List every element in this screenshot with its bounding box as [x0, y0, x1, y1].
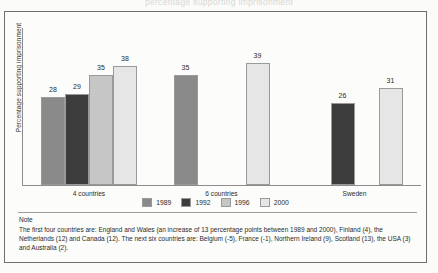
bar-value-label: 31 [387, 77, 395, 84]
legend-item-1989[interactable]: 1989 [142, 198, 171, 207]
bars: 26 31 [307, 28, 403, 185]
bar-value-label: 29 [73, 83, 81, 90]
x-axis-line [22, 185, 421, 186]
note-body: The first four countries are: England an… [19, 225, 417, 253]
legend-label-1996: 1996 [235, 199, 250, 206]
bar-value-label: 28 [49, 86, 57, 93]
bar-group-6-countries: 35 39 [155, 28, 288, 185]
legend-label-1989: 1989 [156, 199, 171, 206]
bar-group-4-countries: 28 29 35 38 [23, 28, 155, 185]
bar-value-label: 35 [182, 64, 190, 71]
legend-swatch-1989 [142, 198, 152, 207]
legend-swatch-1996 [221, 198, 231, 207]
y-axis-label: Percentage supporting imprisonment [15, 8, 22, 148]
legend-item-2000[interactable]: 2000 [260, 198, 289, 207]
chart-legend: 1989 1992 1996 2000 [4, 198, 427, 207]
bar-value-label: 26 [339, 92, 347, 99]
cut-off-title: percentage supporting imprisonment [0, 0, 438, 7]
bar-placeholder-1996 [222, 184, 246, 185]
bar-placeholder-1989 [307, 184, 331, 185]
bar-value-label: 39 [254, 52, 262, 59]
bar-4countries-2000[interactable]: 38 [113, 66, 137, 185]
legend-label-2000: 2000 [274, 199, 289, 206]
bar-4countries-1996[interactable]: 35 [89, 75, 113, 185]
bar-value-label: 35 [97, 64, 105, 71]
bar-groups: 28 29 35 38 35 [23, 28, 421, 185]
legend-swatch-1992 [181, 198, 191, 207]
note-section: Note The first four countries are: Engla… [19, 215, 417, 252]
bar-placeholder-1992 [198, 184, 222, 185]
bar-group-sweden: 26 31 [288, 28, 421, 185]
bar-placeholder-1996 [355, 184, 379, 185]
bar-sweden-2000[interactable]: 31 [379, 88, 403, 185]
legend-item-1992[interactable]: 1992 [181, 198, 210, 207]
bar-4countries-1989[interactable]: 28 [41, 97, 65, 185]
bar-6countries-1989[interactable]: 35 [174, 75, 198, 185]
bars: 35 39 [174, 28, 270, 185]
bar-6countries-2000[interactable]: 39 [246, 63, 270, 185]
legend-item-1996[interactable]: 1996 [221, 198, 250, 207]
bar-sweden-1992[interactable]: 26 [331, 103, 355, 185]
legend-swatch-2000 [260, 198, 270, 207]
plot-area: Percentage supporting imprisonment 28 29… [4, 12, 427, 188]
note-heading: Note [19, 215, 417, 224]
bar-4countries-1992[interactable]: 29 [65, 94, 89, 185]
bar-value-label: 38 [121, 55, 129, 62]
legend-label-1992: 1992 [195, 199, 210, 206]
bars: 28 29 35 38 [41, 28, 137, 185]
figure-page: percentage supporting imprisonment Perce… [0, 0, 438, 273]
note-separator [18, 212, 417, 213]
